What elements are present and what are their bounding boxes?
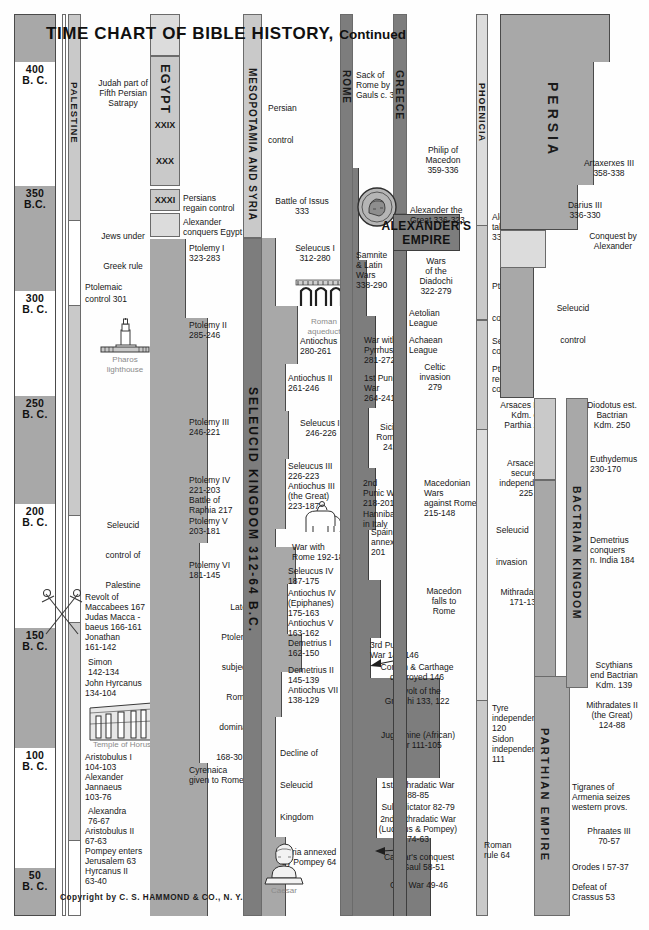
date-tick-300: 300B. C. bbox=[14, 293, 56, 315]
temple-of-horus-icon bbox=[88, 700, 154, 742]
seleucid-territory-step-2 bbox=[262, 306, 298, 364]
persia-entry-6: Demetrius conquers n. India 184 bbox=[590, 535, 648, 565]
egypt-alexander-band bbox=[150, 213, 180, 237]
seleucid-territory-step-3 bbox=[262, 364, 286, 411]
greece-entry-3: Aetolian League bbox=[409, 308, 461, 328]
persia-entry-0: Artaxerxes III 358-338 bbox=[572, 158, 646, 178]
rome-entry-10: Revolt of the Gracchi 133, 122 bbox=[373, 686, 461, 706]
persia-entry-5: Euthydemus 230-170 bbox=[590, 454, 648, 474]
maccabean-swords-icon bbox=[40, 588, 84, 640]
date-tick-400: 400B. C. bbox=[14, 64, 56, 86]
persia-entry-7: Scythians end Bactrian Kdm. 139 bbox=[580, 660, 648, 690]
egypt-ptolemaic-band-upper bbox=[150, 239, 180, 916]
greece-entry-6: Macedonian Wars against Rome 215-148 bbox=[424, 478, 484, 518]
rome-entry-15: Caesar's conquest of Gaul 58-51 bbox=[376, 852, 462, 872]
seleucid-territory-step-10 bbox=[262, 672, 282, 717]
rome-expansion-7 bbox=[353, 580, 381, 638]
date-scale-border bbox=[14, 14, 56, 916]
rome-entry-16: Civil War 49-46 bbox=[376, 880, 462, 890]
phoenicia-header: PHOENICIA bbox=[476, 58, 488, 168]
seleucid-kingdom-header: SELEUCID KINGDOM 312-64 B.C. bbox=[243, 300, 262, 720]
time-chart-bible-history: TIME CHART OF BIBLE HISTORY, Continued 4… bbox=[0, 0, 649, 930]
caesar-bust-caption: Caesar bbox=[262, 886, 306, 896]
persia-alexander-band bbox=[500, 230, 546, 268]
date-tick-100: 100B. C. bbox=[14, 750, 56, 772]
title-main: TIME CHART OF BIBLE HISTORY, bbox=[46, 24, 334, 43]
persia-entry-4: Diodotus est. Bactrian Kdm. 250 bbox=[578, 400, 646, 430]
title-continued: Continued bbox=[339, 27, 406, 42]
palestine-greek-rule-segment bbox=[68, 220, 81, 306]
rome-expansion-6 bbox=[353, 530, 369, 580]
caesar-bust-icon bbox=[262, 838, 306, 886]
persia-entry-2: Conquest by Alexander bbox=[580, 231, 646, 251]
pharos-lighthouse-caption: Pharos lighthouse bbox=[95, 355, 155, 374]
phoenicia-ptolemaic-segment bbox=[476, 225, 488, 320]
seleucid-territory-step-5 bbox=[262, 459, 286, 529]
egypt-dynasty-xxix: XXIX bbox=[150, 120, 180, 130]
seleucid-territory-step-1 bbox=[262, 238, 276, 306]
page-title: TIME CHART OF BIBLE HISTORY, Continued bbox=[46, 24, 406, 44]
rome-expansion-8 bbox=[353, 638, 371, 678]
egypt-ptolemaic-extension-1 bbox=[180, 239, 186, 318]
seleucid-territory-step-11 bbox=[262, 717, 276, 837]
persia-header: PERSIA bbox=[540, 55, 566, 185]
greece-header: GREECE bbox=[393, 60, 407, 130]
palestine-column-divider bbox=[62, 14, 66, 916]
phoenicia-entry-10: Roman rule 64 bbox=[484, 840, 534, 860]
parthian-empire-header: PARTHIAN EMPIRE bbox=[534, 680, 556, 910]
seleucid-territory-step-8 bbox=[262, 584, 288, 634]
mesopotamia-header: MESOPOTAMIA AND SYRIA bbox=[243, 58, 262, 230]
rome-entry-9: Corinth & Carthage destroyed 146 bbox=[373, 662, 461, 682]
mesopotamia-entry-1: Battle of Issus 333 bbox=[262, 196, 342, 216]
date-tick-250: 250B. C. bbox=[14, 398, 56, 420]
phoenicia-seleucid-segment bbox=[476, 320, 488, 430]
rome-header: ROME bbox=[340, 58, 353, 116]
greece-entry-0: Philip of Macedon 359-336 bbox=[410, 145, 476, 175]
egypt-dynasty-xxx: XXX bbox=[150, 156, 180, 166]
greece-entry-2: Wars of the Diadochi 322-279 bbox=[410, 256, 462, 296]
egypt-dynasty-xxxi: XXXI bbox=[150, 195, 180, 205]
rome-entry-11: Jugurthine (African) War 111-105 bbox=[373, 730, 463, 750]
date-tick-350: 350B.C. bbox=[14, 188, 56, 210]
rome-entry-13: Sulla dictator 82-79 bbox=[373, 802, 463, 812]
elephant-rider-icon bbox=[296, 500, 344, 534]
copyright-notice: Copyright by C. S. HAMMOND & CO., N. Y. bbox=[60, 893, 243, 902]
greece-entry-4: Achaean League bbox=[409, 335, 461, 355]
persia-entry-1: Darius III 336-330 bbox=[552, 200, 618, 220]
rome-entry-12: 1st Mithradatic War 88-85 bbox=[373, 780, 463, 800]
rome-entry-14: 2nd Mithradatic War (Lucullus & Pompey) … bbox=[373, 814, 463, 844]
rome-entry-4: Sicily Roman 241 bbox=[362, 422, 418, 452]
greece-entry-5: Celtic invasion 279 bbox=[409, 362, 461, 392]
bactrian-kingdom-header: BACTRIAN KINGDOM bbox=[566, 440, 588, 666]
greece-band-lower bbox=[393, 251, 407, 916]
persia-seleucid-band bbox=[500, 268, 534, 398]
date-tick-200: 200B. C. bbox=[14, 506, 56, 528]
persia-entry-8: Mithradates II (the Great) 124-88 bbox=[576, 700, 648, 730]
date-tick-50: 50B. C. bbox=[14, 870, 56, 892]
seleucid-territory-step-6 bbox=[262, 529, 276, 547]
rome-band bbox=[340, 14, 353, 916]
temple-of-horus-caption: Temple of Horus bbox=[86, 740, 158, 750]
persia-entry-12: Defeat of Crassus 53 bbox=[572, 882, 646, 902]
alexanders-empire-title: ALEXANDER'S EMPIRE bbox=[393, 214, 460, 251]
parthia-early-band bbox=[534, 398, 556, 480]
greece-entry-7: Macedon falls to Rome bbox=[418, 586, 470, 616]
palestine-header: PALESTINE bbox=[68, 58, 81, 168]
phoenicia-independent-segment bbox=[476, 700, 488, 916]
persia-entry-3: Seleucid control bbox=[540, 300, 606, 348]
persia-entry-11: Orodes I 57-37 bbox=[572, 862, 646, 872]
pharos-lighthouse-icon bbox=[95, 318, 155, 356]
palestine-hasmonean-segment bbox=[68, 840, 81, 916]
persia-entry-10: Phraates III 70-57 bbox=[572, 826, 646, 846]
persia-entry-9: Tigranes of Armenia seizes western provs… bbox=[572, 782, 646, 812]
egypt-header: EGYPT bbox=[150, 60, 180, 118]
mesopotamia-entry-0: Persian control bbox=[268, 100, 338, 148]
